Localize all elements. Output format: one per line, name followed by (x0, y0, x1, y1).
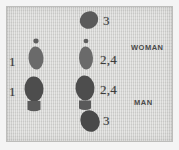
footprint-artwork (0, 0, 179, 150)
footprint-layer (24, 8, 103, 135)
footprint-man-right-foot-bottom-sole (77, 107, 103, 135)
footprint-woman-right-foot-ball (78, 46, 93, 70)
step-label-right-step-2-4-upper: 2,4 (100, 53, 117, 66)
footprint-woman-right-foot-heel-dot (84, 39, 89, 43)
footprint-man-right-foot-heel (79, 101, 91, 110)
step-label-left-step-1-upper: 1 (9, 55, 16, 68)
role-label-man: MAN (134, 99, 153, 107)
role-label-woman: WOMAN (131, 44, 164, 52)
footprint-step-diagram: 1132,42,43WOMANMAN (0, 0, 179, 150)
step-label-right-step-3-bottom: 3 (103, 114, 110, 127)
footprint-woman-right-foot-top-sole (76, 8, 101, 32)
step-label-left-step-1-lower: 1 (9, 85, 16, 98)
footprint-man-right-foot-sole (75, 75, 96, 101)
footprint-man-left-foot-heel (28, 101, 41, 111)
step-label-right-step-2-4-lower: 2,4 (100, 83, 117, 96)
footprint-woman-left-foot-heel-dot (33, 39, 38, 44)
footprint-woman-left-foot-ball (28, 46, 45, 70)
step-label-right-step-3-top: 3 (103, 14, 110, 27)
footprint-man-left-foot-sole (24, 76, 44, 102)
